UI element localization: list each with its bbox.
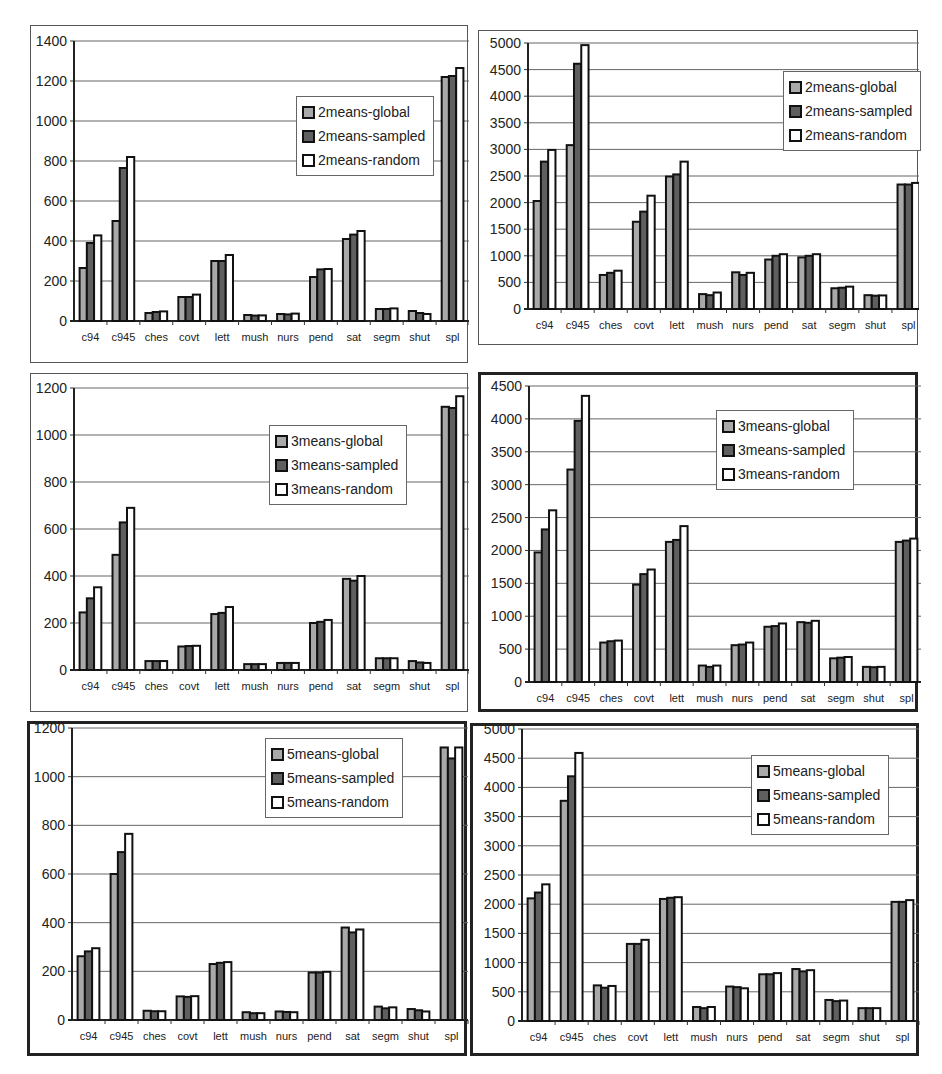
bar-5means-random [542, 884, 549, 1021]
legend-item: 2means-random [302, 148, 425, 172]
x-tick-label: nurs [726, 1031, 748, 1043]
legend-label: 2means-random [318, 152, 420, 168]
bar-3means-sampled [706, 667, 713, 682]
bar-3means-sampled [120, 522, 127, 670]
bar-5means-sampled [316, 973, 323, 1020]
bar-5means-sampled [415, 1010, 422, 1020]
y-tick-label: 200 [44, 273, 68, 289]
y-tick-label: 2500 [484, 867, 515, 883]
legend-swatch-icon [722, 444, 735, 457]
bar-3means-global [896, 542, 903, 682]
bar-5means-global [792, 969, 799, 1021]
bar-2means-global [864, 295, 871, 309]
y-tick-label: 600 [44, 193, 68, 209]
y-tick-label: 2500 [490, 168, 521, 184]
bar-5means-sampled [448, 758, 455, 1020]
bar-2means-random [912, 183, 919, 309]
x-tick-label: shut [863, 692, 884, 704]
x-tick-label: nurs [732, 692, 754, 704]
bar-3means-random [127, 508, 134, 670]
bar-2means-global [80, 268, 87, 321]
bar-2means-random [714, 293, 721, 309]
bar-3means-random [259, 664, 266, 670]
bar-3means-sampled [870, 667, 877, 682]
y-tick-label: 4500 [490, 62, 521, 78]
x-tick-label: c945 [111, 331, 135, 343]
y-tick-label: 0 [57, 1012, 65, 1028]
bar-2means-random [879, 295, 886, 309]
y-tick-label: 1000 [34, 769, 65, 785]
x-tick-label: mush [242, 331, 269, 343]
legend-item: 2means-sampled [789, 99, 912, 123]
x-tick-label: c945 [111, 680, 135, 692]
bar-3means-random [779, 623, 786, 682]
bar-5means-sampled [283, 1012, 290, 1020]
bar-3means-random [680, 526, 687, 682]
x-tick-label: covt [179, 680, 199, 692]
y-tick-label: 5000 [484, 726, 515, 737]
x-tick-label: c945 [566, 692, 590, 704]
legend-label: 5means-sampled [773, 787, 880, 803]
bar-5means-sampled [700, 1008, 707, 1021]
bar-5means-random [191, 996, 198, 1020]
bar-plot: 0200400600800100012001400c94c945chescovt… [31, 26, 469, 364]
chart-legend: 3means-global3means-sampled3means-random [269, 425, 407, 505]
bar-2means-global [666, 177, 673, 309]
x-tick-label: lett [215, 331, 230, 343]
y-tick-label: 1200 [34, 724, 65, 736]
y-tick-label: 0 [507, 1013, 515, 1029]
legend-item: 3means-global [275, 429, 398, 453]
bar-5means-sampled [118, 852, 125, 1020]
bar-2means-sampled [449, 76, 456, 321]
x-tick-label: segm [827, 692, 854, 704]
legend-swatch-icon [302, 154, 315, 167]
bar-3means-random [615, 641, 622, 682]
legend-swatch-icon [302, 130, 315, 143]
bar-2means-random [193, 295, 200, 321]
legend-label: 5means-global [287, 746, 379, 762]
x-tick-label: segm [372, 1030, 399, 1042]
y-tick-label: 200 [44, 615, 68, 631]
x-tick-label: ches [593, 1031, 617, 1043]
bar-3means-global [178, 647, 185, 671]
bar-5means-global [177, 996, 184, 1020]
bar-3means-sampled [449, 408, 456, 670]
legend-item: 3means-sampled [275, 453, 398, 477]
x-tick-label: shut [408, 1030, 429, 1042]
bar-2means-random [423, 314, 430, 321]
bar-2means-sampled [706, 295, 713, 309]
x-tick-label: c94 [80, 1030, 98, 1042]
x-tick-label: pend [309, 331, 333, 343]
y-tick-label: 1500 [484, 925, 515, 941]
bar-2means-global [898, 185, 905, 309]
bar-2means-global [409, 311, 416, 321]
bar-2means-random [548, 150, 555, 309]
bar-5means-random [708, 1007, 715, 1021]
bar-2means-global [831, 288, 838, 309]
y-tick-label: 1000 [490, 248, 521, 264]
bar-2means-random [647, 196, 654, 309]
x-tick-label: mush [697, 319, 724, 331]
bar-5means-sampled [151, 1011, 158, 1020]
x-tick-label: mush [242, 680, 269, 692]
bar-5means-global [276, 1011, 283, 1020]
bar-5means-sampled [833, 1001, 840, 1021]
bar-5means-sampled [899, 902, 906, 1021]
x-tick-label: ches [143, 1030, 167, 1042]
bar-5means-global [111, 874, 118, 1020]
bar-2means-random [780, 254, 787, 309]
bar-5means-sampled [250, 1013, 257, 1020]
x-tick-label: ches [599, 692, 623, 704]
bar-3means-random [292, 663, 299, 670]
bar-2means-sampled [772, 256, 779, 309]
bar-5means-random [389, 1007, 396, 1020]
bar-2means-sampled [383, 309, 390, 321]
legend-label: 5means-random [773, 811, 875, 827]
y-tick-label: 1500 [491, 575, 522, 591]
y-tick-label: 3000 [490, 141, 521, 157]
legend-label: 2means-random [805, 127, 907, 143]
bar-2means-random [226, 255, 233, 321]
y-tick-label: 600 [42, 866, 66, 882]
bar-5means-global [825, 1000, 832, 1021]
x-tick-label: pend [309, 680, 333, 692]
